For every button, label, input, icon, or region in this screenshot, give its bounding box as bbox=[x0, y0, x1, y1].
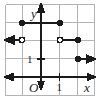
y-unit-tick-label: 1 bbox=[27, 53, 33, 65]
open-point-a bbox=[19, 37, 24, 42]
origin-label: O bbox=[29, 80, 39, 95]
closed-point-c bbox=[75, 37, 81, 43]
closed-point-b bbox=[57, 20, 63, 26]
graph-canvas: y x O 1 1 bbox=[0, 0, 99, 100]
closed-point-d bbox=[75, 56, 81, 62]
open-point-b bbox=[57, 37, 62, 42]
coordinate-graph-figure: y x O 1 1 y x O 1 1 bbox=[0, 0, 99, 100]
y-axis-label: y bbox=[29, 6, 37, 21]
x-axis-label: x bbox=[83, 80, 90, 95]
x-unit-tick-label: 1 bbox=[57, 81, 63, 93]
closed-point-a bbox=[19, 20, 25, 26]
